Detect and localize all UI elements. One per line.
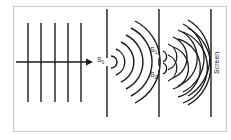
double-slit-diagram: S0 S1 S2 Screen: [0, 0, 231, 140]
circular-wavefronts: [111, 21, 160, 103]
s2-label: S2: [150, 71, 158, 80]
screen-label: Screen: [213, 52, 220, 74]
s0-label: S0: [97, 56, 105, 65]
